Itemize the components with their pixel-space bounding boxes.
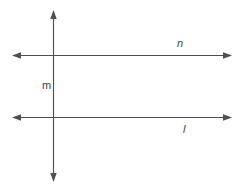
line-l-left-arrowhead-icon bbox=[12, 114, 21, 120]
line-n-left-arrowhead-icon bbox=[12, 52, 21, 58]
line-l bbox=[12, 114, 232, 120]
line-m bbox=[50, 10, 56, 182]
line-m-label: m bbox=[42, 80, 51, 91]
line-n-right-arrowhead-icon bbox=[223, 52, 232, 58]
geometry-figure: n l m bbox=[0, 0, 243, 192]
line-m-bottom-arrowhead-icon bbox=[50, 173, 56, 182]
line-m-top-arrowhead-icon bbox=[50, 10, 56, 19]
figure-canvas bbox=[0, 0, 243, 192]
line-l-right-arrowhead-icon bbox=[223, 114, 232, 120]
line-n bbox=[12, 52, 232, 58]
line-n-label: n bbox=[177, 38, 183, 49]
line-l-label: l bbox=[183, 124, 185, 135]
